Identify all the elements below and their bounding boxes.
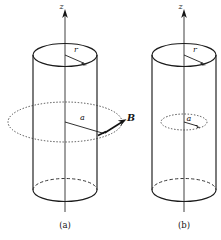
z-axis-label-b: z <box>177 2 183 11</box>
radius-r-line-b <box>184 55 204 64</box>
cylinder-field-diagram: z r a B (a) <box>0 0 221 240</box>
radius-a-label-a: a <box>80 113 85 122</box>
radius-a-label-b: a <box>187 114 192 123</box>
field-vector-arrowhead-a <box>118 119 127 126</box>
panel-caption-a: (a) <box>59 220 71 230</box>
figure-root: z r a B (a) <box>0 0 221 240</box>
radius-r-label-a: r <box>74 45 79 54</box>
panel-b: z r a (b) <box>152 2 216 230</box>
radius-r-line-a <box>65 55 85 64</box>
panel-caption-b: (b) <box>178 220 190 230</box>
radius-a-line-a <box>65 122 104 134</box>
radius-r-label-b: r <box>193 45 198 54</box>
z-axis-label-a: z <box>58 2 64 11</box>
field-vector-label-a: B <box>126 112 135 123</box>
panel-a: z r a B (a) <box>8 2 135 230</box>
